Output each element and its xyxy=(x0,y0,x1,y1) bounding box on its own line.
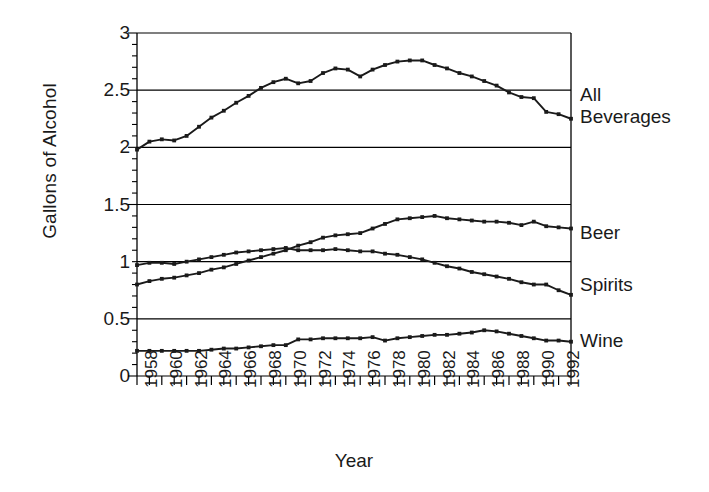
data-point-marker xyxy=(544,110,548,114)
data-point-marker xyxy=(544,224,548,228)
data-point-marker xyxy=(482,220,486,224)
data-point-marker xyxy=(259,248,263,252)
data-point-marker xyxy=(234,251,238,255)
data-point-marker xyxy=(532,220,536,224)
data-point-marker xyxy=(532,283,536,287)
data-point-marker xyxy=(371,227,375,231)
data-point-marker xyxy=(284,77,288,81)
data-point-marker xyxy=(135,148,139,152)
data-point-marker xyxy=(569,293,573,297)
data-point-marker xyxy=(358,231,362,235)
data-point-marker xyxy=(507,277,511,281)
data-point-marker xyxy=(408,335,412,339)
data-point-marker xyxy=(309,79,313,83)
data-point-marker xyxy=(482,79,486,83)
data-point-marker xyxy=(247,249,251,253)
data-point-marker xyxy=(433,261,437,265)
data-point-marker xyxy=(222,109,226,113)
data-point-marker xyxy=(321,336,325,340)
data-point-marker xyxy=(272,343,276,347)
data-point-marker xyxy=(160,137,164,141)
x-tick-label: 1986 xyxy=(490,350,507,388)
series-label-spirits: Spirits xyxy=(580,274,633,296)
data-point-marker xyxy=(296,248,300,252)
data-point-marker xyxy=(458,267,462,271)
data-point-marker xyxy=(408,216,412,220)
data-point-marker xyxy=(259,255,263,259)
data-point-marker xyxy=(507,221,511,225)
data-point-marker xyxy=(334,247,338,251)
data-point-marker xyxy=(346,232,350,236)
data-point-marker xyxy=(197,257,201,261)
data-point-marker xyxy=(482,272,486,276)
data-point-marker xyxy=(371,335,375,339)
data-point-marker xyxy=(569,227,573,231)
data-point-marker xyxy=(433,63,437,67)
data-point-marker xyxy=(532,336,536,340)
data-point-marker xyxy=(234,262,238,266)
data-point-marker xyxy=(185,134,189,138)
data-point-marker xyxy=(544,283,548,287)
data-point-marker xyxy=(569,340,573,344)
data-point-marker xyxy=(470,270,474,274)
data-point-marker xyxy=(396,336,400,340)
data-point-marker xyxy=(470,219,474,223)
x-tick-label: 1982 xyxy=(441,350,458,388)
x-tick-label: 1984 xyxy=(465,350,482,388)
data-point-marker xyxy=(420,215,424,219)
data-point-marker xyxy=(482,328,486,332)
data-point-marker xyxy=(433,333,437,337)
data-point-marker xyxy=(383,63,387,67)
data-point-marker xyxy=(557,288,561,292)
data-point-marker xyxy=(321,236,325,240)
chart-figure: Gallons of Alcohol 00.511.522.53 1958196… xyxy=(0,0,709,492)
data-point-marker xyxy=(396,217,400,221)
data-point-marker xyxy=(383,339,387,343)
series-line-wine xyxy=(137,330,571,351)
data-point-marker xyxy=(557,112,561,116)
data-point-marker xyxy=(420,334,424,338)
data-point-marker xyxy=(197,271,201,275)
data-point-marker xyxy=(284,343,288,347)
data-point-marker xyxy=(222,265,226,269)
x-tick-label: 1966 xyxy=(242,350,259,388)
data-point-marker xyxy=(445,333,449,337)
data-point-marker xyxy=(135,349,139,353)
x-tick-label: 1992 xyxy=(565,350,582,388)
data-point-marker xyxy=(520,334,524,338)
x-tick-label: 1968 xyxy=(267,350,284,388)
data-point-marker xyxy=(557,339,561,343)
data-point-marker xyxy=(234,101,238,105)
data-point-marker xyxy=(148,140,152,144)
data-point-marker xyxy=(420,257,424,261)
data-point-marker xyxy=(222,253,226,257)
data-point-marker xyxy=(569,117,573,121)
data-point-marker xyxy=(383,222,387,226)
x-tick-label: 1964 xyxy=(217,350,234,388)
data-point-marker xyxy=(148,279,152,283)
data-point-marker xyxy=(507,332,511,336)
data-point-marker xyxy=(210,255,214,259)
data-point-marker xyxy=(185,273,189,277)
data-point-marker xyxy=(507,91,511,95)
data-point-marker xyxy=(346,336,350,340)
data-point-marker xyxy=(408,59,412,63)
data-point-marker xyxy=(520,95,524,99)
data-point-marker xyxy=(309,248,313,252)
x-tick-label: 1962 xyxy=(193,350,210,388)
data-point-marker xyxy=(445,67,449,71)
x-tick-label: 1974 xyxy=(341,350,358,388)
x-tick-label: 1988 xyxy=(515,350,532,388)
x-tick-label: 1960 xyxy=(168,350,185,388)
data-point-marker xyxy=(358,336,362,340)
x-tick-label: 1976 xyxy=(366,350,383,388)
data-point-marker xyxy=(160,277,164,281)
data-point-marker xyxy=(470,75,474,79)
x-tick-label: 1990 xyxy=(540,350,557,388)
data-point-marker xyxy=(495,84,499,88)
data-point-marker xyxy=(433,214,437,218)
data-point-marker xyxy=(334,336,338,340)
data-point-marker xyxy=(458,217,462,221)
series-label-wine: Wine xyxy=(580,330,623,352)
data-point-marker xyxy=(334,233,338,237)
